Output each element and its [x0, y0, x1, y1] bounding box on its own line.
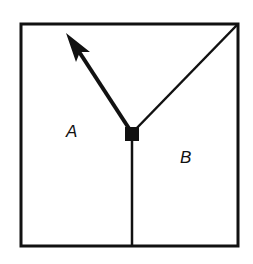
- arrow-vector: [76, 47, 130, 130]
- region-label-b: B: [180, 148, 191, 167]
- junction-point: [125, 127, 139, 141]
- arrowhead-icon: [66, 33, 90, 62]
- diagonal-boundary: [132, 25, 237, 133]
- diagram-canvas: A B: [0, 0, 253, 264]
- region-label-a: A: [65, 122, 77, 141]
